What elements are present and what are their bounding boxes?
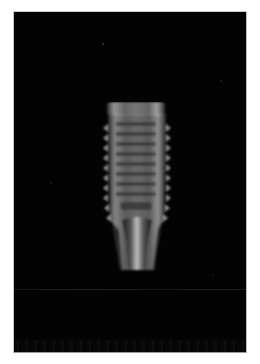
radiograph-panel: Grayscale X-ray of a threaded dental imp… (13, 11, 247, 353)
scan-artifact-line (14, 289, 246, 290)
noise-speck (220, 80, 222, 82)
image-description: Grayscale X-ray of a threaded dental imp… (14, 12, 15, 13)
bottom-noise-band (14, 340, 246, 352)
noise-speck (102, 43, 104, 45)
noise-speck (212, 274, 214, 276)
noise-speck (50, 182, 52, 184)
dental-implant (102, 102, 172, 272)
